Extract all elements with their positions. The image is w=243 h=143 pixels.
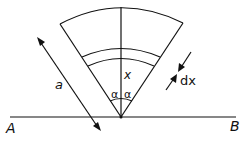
dx-arrowhead-bottom [170, 74, 177, 83]
label-alpha-right: α [124, 89, 131, 100]
label-alpha-left: α [111, 89, 118, 100]
dx-arrowhead-top [178, 63, 185, 72]
sector-diagram: a x α α dx A B [0, 0, 243, 143]
label-dx: dx [180, 74, 196, 87]
a-arrowhead-top [37, 37, 45, 46]
label-B: B [230, 119, 240, 133]
diagram-lines [0, 0, 243, 143]
label-a: a [55, 78, 63, 91]
apex-point [120, 116, 123, 119]
label-x: x [124, 69, 131, 81]
a-arrowhead-bottom [93, 122, 101, 131]
sector-left-edge [60, 24, 121, 117]
label-A: A [6, 121, 16, 135]
